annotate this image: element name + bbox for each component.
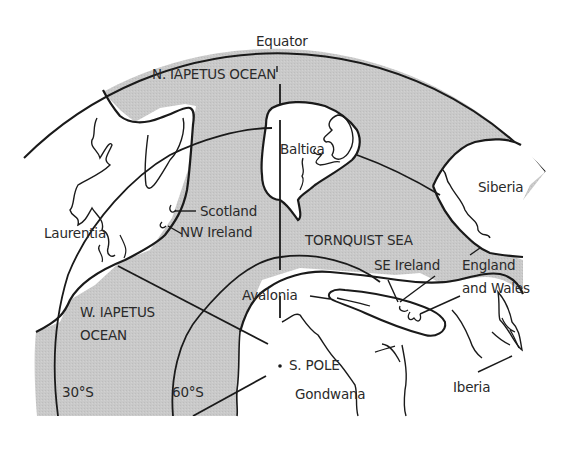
south-pole-marker	[278, 364, 282, 368]
gondwana-label: Gondwana	[295, 387, 365, 402]
england-label-line1: England	[462, 258, 515, 273]
avalonia-label: Avalonia	[242, 288, 298, 303]
n-iapetus-ocean-label: N. IAPETUS OCEAN	[152, 67, 276, 82]
equator-label: Equator	[256, 34, 308, 49]
baltica-label: Baltica	[280, 142, 325, 157]
w-iapetus-label-line2: OCEAN	[80, 328, 127, 343]
england-label-line2: and Wales	[462, 281, 530, 296]
w-iapetus-label-line1: W. IAPETUS	[80, 305, 155, 320]
tornquist-sea-label: TORNQUIST SEA	[305, 233, 413, 248]
lat-30-label: 30°S	[62, 385, 94, 400]
lat-60-label: 60°S	[172, 385, 204, 400]
siberia-label: Siberia	[478, 180, 523, 195]
se-ireland-label: SE Ireland	[374, 258, 440, 273]
laurentia-label: Laurentia	[44, 226, 106, 241]
south-pole-label: S. POLE	[289, 358, 340, 373]
iberia-label: Iberia	[453, 380, 490, 395]
nw-ireland-label: NW Ireland	[180, 225, 252, 240]
scotland-label: Scotland	[200, 204, 257, 219]
